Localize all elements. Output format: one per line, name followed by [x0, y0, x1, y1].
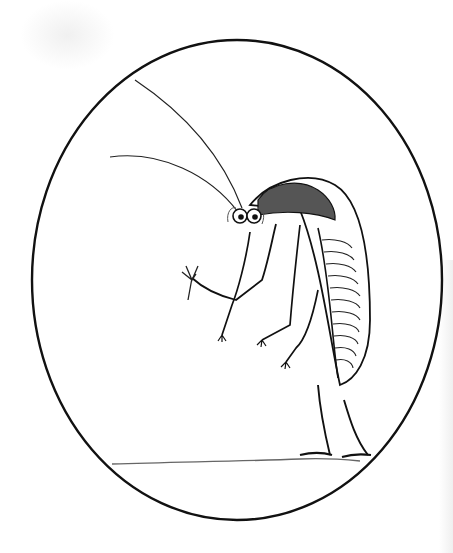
leg-back-right [344, 400, 368, 455]
leg-back-left [318, 385, 330, 455]
foot-left [300, 453, 332, 455]
flower-icon [182, 266, 198, 300]
leg-2-foot [257, 340, 266, 347]
insect-drawing [0, 0, 453, 553]
pupil-right [252, 214, 258, 220]
leg-3-foot [281, 362, 290, 369]
illustration [0, 0, 453, 553]
leg-3 [286, 290, 318, 362]
front-arm [192, 224, 276, 300]
antenna-upper [135, 80, 242, 208]
leg-2 [262, 225, 300, 340]
leg-1-foot [218, 335, 226, 342]
foot-right [342, 454, 371, 457]
antenna-lower [110, 156, 238, 212]
oval-frame [32, 40, 442, 520]
ground-line [112, 459, 360, 464]
leg-1 [222, 232, 250, 335]
pupil-left [238, 214, 244, 220]
